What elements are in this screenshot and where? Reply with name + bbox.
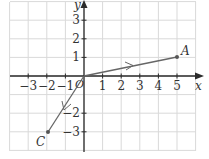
point-A-label: A (180, 44, 190, 58)
point-A (175, 55, 179, 59)
x-tick-label: −3 (19, 79, 37, 93)
point-C (46, 130, 50, 134)
x-tick-labels: −3−2−112345 (19, 79, 180, 93)
x-tick-label: 4 (155, 79, 163, 93)
x-axis-label: x (195, 79, 202, 93)
coordinate-diagram: −3−2−112345 321−2−3 x y O A C (0, 0, 209, 159)
segment-OA (84, 57, 177, 76)
x-tick-label: 1 (99, 79, 107, 93)
x-tick-label: 5 (173, 79, 181, 93)
y-axis-label: y (73, 0, 81, 12)
y-tick-label: 2 (72, 32, 80, 46)
x-tick-label: 2 (117, 79, 125, 93)
point-C-label: C (36, 135, 45, 149)
y-tick-label: 3 (72, 13, 80, 27)
y-tick-label: 1 (72, 50, 80, 64)
x-tick-label: −2 (38, 79, 56, 93)
y-tick-label: −2 (62, 106, 80, 120)
x-tick-label: 3 (136, 79, 144, 93)
x-tick-label: −1 (57, 79, 75, 93)
y-tick-label: −3 (62, 125, 80, 139)
direction-arrow-icon (125, 62, 133, 70)
